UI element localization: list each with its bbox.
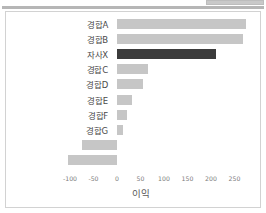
x-axis-title-label: 이익 xyxy=(132,186,150,200)
bar-rect xyxy=(117,79,143,89)
bar-row: 경합G xyxy=(6,122,260,137)
bar-rect xyxy=(117,110,127,120)
x-tick-label: 0 xyxy=(115,175,119,182)
bar-row: 경합D xyxy=(6,77,260,92)
x-tick-label: 200 xyxy=(205,175,217,182)
bar-row: 자사X xyxy=(6,46,260,61)
bar-rect xyxy=(117,49,216,59)
bar-category-label: 경합C xyxy=(87,63,108,75)
bar-row: 경합F xyxy=(6,107,260,122)
bar-rect xyxy=(117,34,243,44)
x-tick-label: 100 xyxy=(158,175,170,182)
x-tick-label: -50 xyxy=(88,175,98,182)
header-divider xyxy=(2,6,264,9)
bar-rect xyxy=(117,19,246,29)
bar-category-label: 자사X xyxy=(87,48,108,60)
top-right-tab[interactable] xyxy=(206,0,264,5)
bar-row: 경합B xyxy=(6,31,260,46)
bar-rect xyxy=(117,125,123,135)
x-tick-label: 150 xyxy=(182,175,194,182)
chart-card: 경합A경합B자사X경합C경합D경합E경합F경합G경합H경합I -100-5005… xyxy=(5,11,261,208)
bar-category-label: 경합G xyxy=(86,124,108,136)
bar-category-label: 경합D xyxy=(86,78,108,90)
bar-rect xyxy=(117,95,132,105)
bar-rect xyxy=(68,155,117,165)
bar-row: 경합I xyxy=(6,153,260,168)
bar-row: 경합C xyxy=(6,62,260,77)
bar-category-label: 경합E xyxy=(87,94,108,106)
bar-category-label: 경합B xyxy=(87,33,108,45)
bar-row: 경합E xyxy=(6,92,260,107)
x-tick-label: 250 xyxy=(229,175,241,182)
bar-row: 경합A xyxy=(6,16,260,31)
x-axis-title: 이익 xyxy=(6,186,260,200)
bar-category-label: 경합A xyxy=(87,18,108,30)
x-tick-label: 50 xyxy=(137,175,145,182)
x-tick-label: -100 xyxy=(63,175,77,182)
bar-category-label: 경합F xyxy=(88,109,108,121)
bar-rect xyxy=(117,64,148,74)
bar-row: 경합H xyxy=(6,138,260,153)
bar-rect xyxy=(82,140,117,150)
